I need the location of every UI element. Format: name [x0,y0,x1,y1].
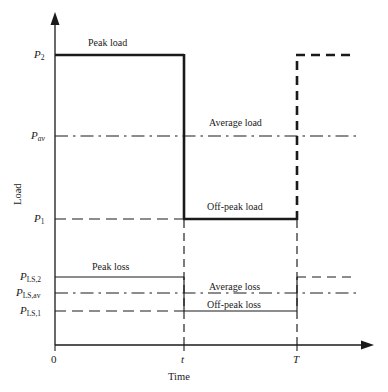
annotation-offpeak-loss: Off-peak loss [207,299,261,310]
load-duration-diagram: P2 Pav P1 PLS,2 PLS,av PLS,1 0 t T Load … [0,0,388,392]
x-tick-label-zero: 0 [51,353,57,365]
x-tick-marks [55,345,297,351]
y-tick-p2-base: P [34,48,41,60]
annotation-average-load: Average load [209,117,262,128]
y-tick-p2-sub: 2 [41,53,45,62]
y-tick-label-plsav: PLS,av [16,286,40,300]
y-tick-p1-sub: 1 [41,217,45,226]
annotation-offpeak-load: Off-peak load [207,201,263,212]
chart-plot-area [0,0,388,392]
y-tick-pls2-base: P [20,270,27,282]
annotation-peak-loss: Peak loss [92,261,130,272]
x-axis-arrow-icon [361,341,374,350]
y-axis-title: Load [12,183,23,205]
y-axis-arrow-icon [51,12,60,25]
y-tick-pls1-sub: LS,1 [27,309,41,318]
y-tick-label-pls1: PLS,1 [20,304,41,318]
y-tick-pls2-sub: LS,2 [27,275,41,284]
y-tick-label-p2: P2 [34,48,44,62]
y-tick-plsav-base: P [16,286,23,298]
y-tick-pav-sub: av [38,134,45,143]
y-tick-label-p1: P1 [34,212,44,226]
x-axis-title: Time [168,371,190,382]
annotation-average-loss: Average loss [209,281,260,292]
y-tick-label-pls2: PLS,2 [20,270,41,284]
load-curve-group [55,54,356,220]
y-tick-p1-base: P [34,212,41,224]
y-tick-plsav-sub: LS,av [23,291,41,300]
x-tick-label-T: T [293,353,299,365]
loss-curve-group [55,277,356,311]
reference-lines-group [55,136,356,345]
y-tick-label-pav: Pav [31,129,45,143]
x-tick-label-t: t [181,353,184,365]
y-tick-pav-base: P [31,129,38,141]
y-tick-pls1-base: P [20,304,27,316]
annotation-peak-load: Peak load [88,37,127,48]
